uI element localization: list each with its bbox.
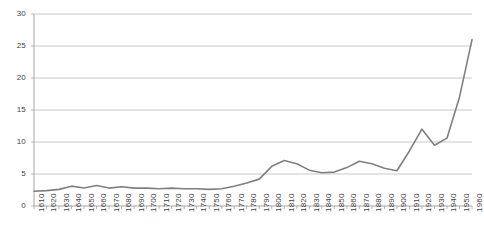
y-axis-tick-label: 10 — [4, 138, 26, 146]
x-axis-tick-label: 1880 — [375, 193, 383, 212]
x-axis-tick-label: 1780 — [250, 193, 258, 212]
x-axis-tick-label: 1950 — [463, 193, 471, 212]
x-axis-tick-label: 1910 — [413, 193, 421, 212]
x-axis-tick-label: 1620 — [50, 193, 58, 212]
x-axis-tick-label: 1870 — [363, 193, 371, 212]
y-axis-tick-label: 0 — [4, 202, 26, 210]
x-axis-tick-label: 1840 — [325, 193, 333, 212]
x-axis-tick-label: 1640 — [75, 193, 83, 212]
y-axis-tick-label: 20 — [4, 74, 26, 82]
x-axis-tick-label: 1800 — [275, 193, 283, 212]
x-axis-tick-label: 1750 — [213, 193, 221, 212]
x-axis-tick-label: 1690 — [138, 193, 146, 212]
x-axis-tick-label: 1650 — [88, 193, 96, 212]
x-axis-tick-label: 1850 — [338, 193, 346, 212]
x-axis-tick-label: 1960 — [476, 193, 484, 212]
x-axis-tick-label: 1710 — [163, 193, 171, 212]
x-axis-tick-label: 1720 — [175, 193, 183, 212]
y-axis-tick-label: 5 — [4, 170, 26, 178]
x-axis-tick-label: 1660 — [100, 193, 108, 212]
line-chart: 051015202530 161016201630164016501660167… — [0, 0, 484, 243]
x-axis-tick-label: 1890 — [388, 193, 396, 212]
x-axis-tick-label: 1820 — [300, 193, 308, 212]
x-axis-tick-label: 1630 — [63, 193, 71, 212]
x-axis-tick-label: 1920 — [425, 193, 433, 212]
x-axis-tick-label: 1830 — [313, 193, 321, 212]
gridlines — [34, 14, 472, 174]
x-axis-tick-label: 1670 — [113, 193, 121, 212]
x-axis-tick-label: 1790 — [263, 193, 271, 212]
y-axis-tick-label: 15 — [4, 106, 26, 114]
data-series-line — [34, 40, 472, 192]
x-axis-tick-label: 1610 — [38, 193, 46, 212]
x-axis-tick-label: 1860 — [350, 193, 358, 212]
x-axis-tick-label: 1700 — [150, 193, 158, 212]
x-axis-tick-label: 1770 — [238, 193, 246, 212]
x-axis-tick-label: 1730 — [188, 193, 196, 212]
x-axis-tick-label: 1760 — [225, 193, 233, 212]
x-axis-tick-label: 1680 — [125, 193, 133, 212]
x-axis-tick-label: 1740 — [200, 193, 208, 212]
x-axis-tick-label: 1930 — [438, 193, 446, 212]
x-axis-tick-label: 1810 — [288, 193, 296, 212]
x-axis-tick-label: 1900 — [400, 193, 408, 212]
y-axis-tick-label: 25 — [4, 42, 26, 50]
x-axis-tick-label: 1940 — [450, 193, 458, 212]
y-axis-tick-label: 30 — [4, 10, 26, 18]
